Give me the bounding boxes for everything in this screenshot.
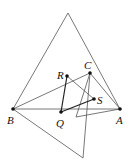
point-R bbox=[65, 74, 69, 78]
label-B: B bbox=[7, 114, 14, 126]
segment-inner-A bbox=[76, 109, 120, 117]
segment-R-S bbox=[67, 76, 94, 99]
point-B bbox=[11, 107, 15, 111]
point-A bbox=[118, 107, 122, 111]
point-C bbox=[88, 71, 92, 75]
segment-B-C bbox=[13, 73, 90, 109]
label-C: C bbox=[84, 59, 92, 71]
point-S bbox=[92, 97, 96, 101]
label-S: S bbox=[97, 94, 103, 106]
label-A: A bbox=[115, 114, 123, 126]
geometry-diagram: B A C R S Q bbox=[0, 0, 130, 167]
segment-B-bottom bbox=[13, 109, 83, 158]
label-Q: Q bbox=[56, 117, 64, 129]
segment-top-A bbox=[68, 13, 120, 109]
segment-R-Q bbox=[61, 76, 67, 112]
segment-Q-S bbox=[61, 99, 94, 112]
segment-top-B bbox=[13, 13, 68, 109]
label-R: R bbox=[56, 69, 64, 81]
point-Q bbox=[59, 110, 63, 114]
segment-C-A bbox=[90, 73, 120, 109]
